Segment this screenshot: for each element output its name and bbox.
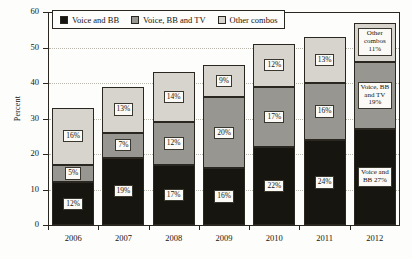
bar-segment[interactable]: 5% [52,165,94,183]
x-axis-tick-label: 2012 [366,233,383,243]
x-axis-tick-label: 2011 [316,233,333,243]
gridline [49,48,399,49]
bar-segment[interactable]: 22% [253,147,295,225]
bar-segment-label: 16% [63,130,83,142]
y-axis-tick-label: 30 [31,113,40,123]
bar-segment-label: 13% [315,54,335,66]
bar-segment[interactable]: 16% [52,108,94,165]
bar-segment-label: 24% [315,176,335,188]
bar-segment-label: 19% [114,185,134,197]
bar-2009[interactable]: 16%20%9% [203,65,245,225]
x-axis-tick-label: 2007 [115,233,132,243]
axis-line-bottom [48,225,400,226]
x-axis-tick [98,226,99,230]
bar-2010[interactable]: 22%17%12% [253,44,295,225]
bar-segment-label: 16% [214,190,234,202]
bar-2008[interactable]: 17%12%14% [153,72,195,225]
legend-label: Voice, BB and TV [143,15,206,25]
stacked-bar-chart: Percent 0102030405060 200620072008200920… [0,0,412,259]
y-axis-tick-label: 40 [31,77,40,87]
bar-segment-label: 17% [164,189,184,201]
bar-2006[interactable]: 12%5%16% [52,108,94,225]
bar-segment[interactable]: 16% [203,168,245,225]
chart-legend: Voice and BBVoice, BB and TVOther combos [52,10,285,29]
bar-segment[interactable]: 13% [304,37,346,83]
x-axis-tick-label: 2008 [165,233,182,243]
legend-swatch-icon [60,16,68,24]
bar-segment[interactable]: 19% [102,158,144,225]
y-axis-tick-label: 20 [31,148,40,158]
legend-item[interactable]: Other combos [218,15,278,25]
bar-segment-label: 20% [214,127,234,139]
plot-border-right [399,12,400,226]
y-axis-label: Percent [13,79,22,139]
x-axis-tick [199,226,200,230]
y-axis-tick: 60 [43,12,48,13]
bar-segment-label: 7% [115,139,131,151]
x-axis-tick-label: 2010 [266,233,283,243]
x-axis-tick-label: 2006 [65,233,82,243]
bar-segment[interactable]: 13% [102,87,144,133]
bar-segment-label: 9% [216,75,232,87]
legend-item[interactable]: Voice, BB and TV [131,15,206,25]
bar-segment-label: 16% [315,105,335,117]
bar-segment[interactable]: 17% [253,87,295,147]
x-axis-tick [249,226,250,230]
bar-segment[interactable]: Other combos 11% [354,23,396,62]
bar-segment-label: 13% [114,103,134,115]
bar-segment-label: 22% [264,180,284,192]
y-axis-tick-label: 0 [35,219,39,229]
y-axis-tick: 30 [43,119,48,120]
bar-segment[interactable]: 14% [153,72,195,122]
bar-segment[interactable]: 12% [253,44,295,87]
bar-segment-label: 12% [63,198,83,210]
y-axis-tick-label: 10 [31,184,40,194]
bar-2011[interactable]: 24%16%13% [304,37,346,225]
legend-label: Voice and BB [72,15,119,25]
y-axis-tick-label: 60 [31,6,40,16]
bar-segment[interactable]: Voice and BB 27% [354,129,396,225]
x-axis-tick-label: 2009 [216,233,233,243]
bar-segment[interactable]: Voice, BB and TV 19% [354,62,396,129]
plot-area: 0102030405060 20062007200820092010201120… [48,12,400,226]
y-axis-tick: 40 [43,83,48,84]
bar-segment[interactable]: 20% [203,97,245,168]
bar-segment[interactable]: 16% [304,83,346,140]
bar-segment-label: Other combos 11% [358,28,392,55]
y-axis-tick: 50 [43,48,48,49]
legend-swatch-icon [218,16,226,24]
legend-item[interactable]: Voice and BB [60,15,119,25]
bar-2012[interactable]: Voice and BB 27%Voice, BB and TV 19%Othe… [354,23,396,225]
legend-label: Other combos [230,15,278,25]
y-axis-tick: 20 [43,154,48,155]
bar-segment-label: Voice, BB and TV 19% [358,82,392,109]
bar-segment-label: 17% [264,111,284,123]
bar-segment-label: 14% [164,91,184,103]
x-axis-tick [48,226,49,230]
legend-swatch-icon [131,16,139,24]
bar-segment-label: 12% [164,137,184,149]
bar-segment[interactable]: 24% [304,140,346,225]
bar-segment[interactable]: 7% [102,133,144,158]
x-axis-tick [350,226,351,230]
bar-segment[interactable]: 17% [153,165,195,225]
y-axis-tick: 10 [43,190,48,191]
x-axis-tick [299,226,300,230]
bar-segment[interactable]: 12% [153,122,195,165]
bar-segment-label: 12% [264,59,284,71]
bar-segment-label: 5% [65,167,81,179]
bar-segment[interactable]: 9% [203,65,245,97]
bar-segment[interactable]: 12% [52,182,94,225]
y-axis-tick-label: 50 [31,42,40,52]
bar-2007[interactable]: 19%7%13% [102,87,144,225]
bar-segment-label: Voice and BB 27% [358,167,392,187]
x-axis-tick [149,226,150,230]
